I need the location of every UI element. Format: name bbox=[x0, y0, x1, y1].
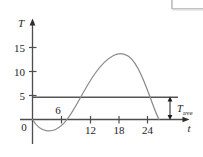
y-tick-label-15: 15 bbox=[14, 42, 26, 54]
origin-label: 0 bbox=[21, 121, 27, 133]
y-axis-label: T bbox=[18, 17, 25, 29]
y-tick-label-10: 10 bbox=[14, 66, 26, 78]
x-tick-label-12: 12 bbox=[85, 124, 96, 136]
x-tick-label-18: 18 bbox=[114, 124, 126, 136]
y-tick-label-5: 5 bbox=[20, 90, 26, 102]
t-ave-label-subscript: ave bbox=[183, 109, 193, 117]
x-tick-label-24: 24 bbox=[142, 124, 154, 136]
temperature-graph-figure: T t 0 15 10 5 6 12 18 24 Tave bbox=[0, 0, 203, 157]
x-tick-label-6: 6 bbox=[55, 104, 61, 116]
